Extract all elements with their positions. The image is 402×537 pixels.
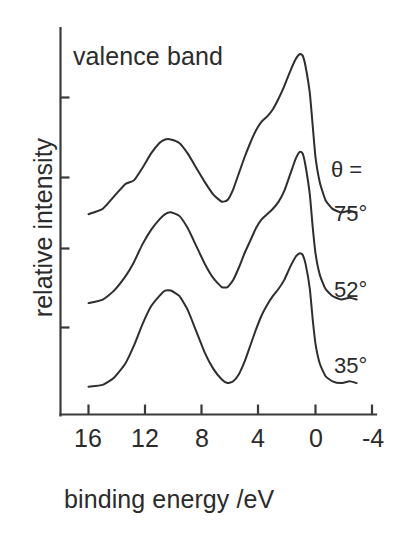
series-label-35deg: 35°	[334, 355, 367, 377]
x-axis-label: binding energy /eV	[64, 487, 274, 512]
y-axis-label: relative intensity	[31, 98, 56, 358]
spectrum-curve-75deg	[89, 54, 357, 214]
x-axis-ticks	[89, 405, 373, 415]
plot-title: valence band	[73, 44, 223, 69]
y-axis-ticks	[61, 98, 70, 328]
series-label-52deg: 52°	[334, 279, 367, 301]
series-label-75deg: 75°	[334, 203, 367, 225]
plot-canvas	[0, 0, 402, 537]
spectrum-curve-52deg	[89, 152, 357, 303]
theta-annotation: θ =	[331, 159, 362, 181]
x-tick-label-16: 16	[65, 424, 111, 453]
x-tick-label-minus4: -4	[350, 424, 396, 453]
x-tick-label-12: 12	[122, 424, 168, 453]
figure-root: valence band binding energy /eV relative…	[0, 0, 402, 537]
x-tick-label-0: 0	[293, 424, 339, 453]
x-tick-label-4: 4	[235, 424, 281, 453]
x-tick-label-8: 8	[179, 424, 225, 453]
